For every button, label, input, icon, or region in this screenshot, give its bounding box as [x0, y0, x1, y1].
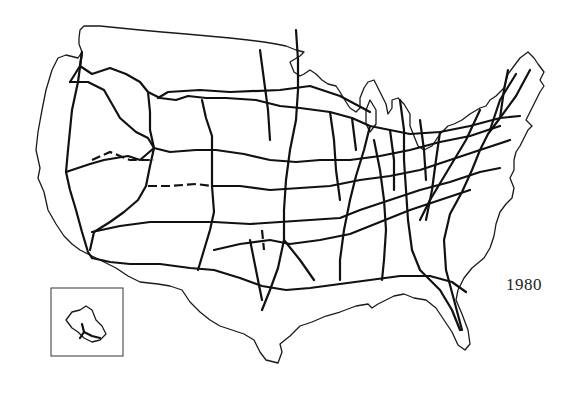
us-outline [36, 26, 544, 363]
inset-frame [51, 288, 123, 356]
year-label: 1980 [506, 275, 542, 295]
interstate-map-figure: 1980 [0, 0, 575, 393]
us-map [0, 0, 575, 393]
hawaii-inset [51, 288, 123, 356]
oahu-outline [66, 306, 106, 342]
